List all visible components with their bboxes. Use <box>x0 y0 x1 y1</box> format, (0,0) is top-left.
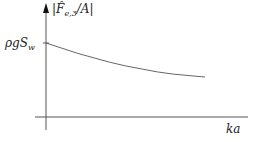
y-axis-label: |F̂e,3/A| <box>52 1 94 18</box>
y-tick-label: ρgSw <box>4 36 35 52</box>
chart: |F̂e,3/A| ρgSw ka <box>0 0 257 142</box>
y-axis-arrow-icon <box>43 3 49 13</box>
curve-line <box>46 43 205 77</box>
x-axis-label: ka <box>226 122 240 136</box>
